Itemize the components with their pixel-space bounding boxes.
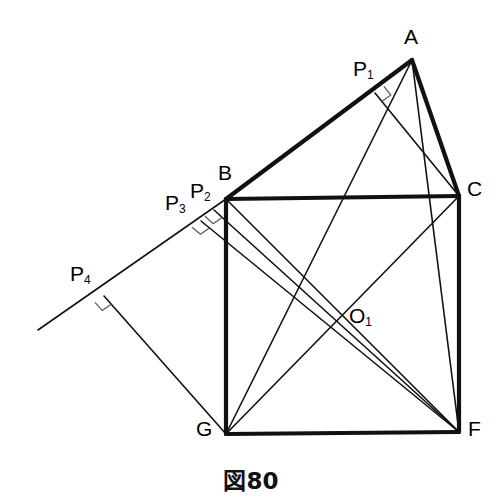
vertex-label-A: A: [404, 26, 418, 47]
point-label-P2: P2: [190, 180, 211, 201]
segment-P3F: [201, 221, 459, 432]
vertex-label-F: F: [468, 418, 481, 439]
segment-P4G: [104, 296, 226, 434]
figure-caption: 図80: [0, 462, 502, 496]
thick-edge-group: [226, 60, 459, 434]
segment-AC: [412, 60, 459, 196]
segment-ray-BP4: [38, 199, 226, 330]
segment-P2F: [214, 210, 459, 432]
segment-BF: [226, 199, 459, 432]
point-label-P1: P1: [353, 58, 374, 79]
right-angle-at-p2: [205, 216, 222, 223]
right-angle-at-p4: [95, 302, 111, 310]
vertex-label-B: B: [218, 162, 232, 183]
segment-P1C: [375, 93, 459, 196]
vertex-label-G: G: [196, 418, 212, 439]
right-angle-at-p3: [192, 227, 210, 234]
figure-canvas: A B C F G O1 P1 P2 P3 P4 図80: [0, 0, 502, 504]
geometry-drawing: [0, 0, 502, 504]
point-label-O1: O1: [349, 305, 372, 326]
segment-AF: [412, 60, 459, 432]
point-label-P4: P4: [70, 263, 91, 284]
thin-edge-group: [38, 60, 459, 434]
right-angle-at-p1: [382, 86, 391, 101]
segment-BC: [226, 196, 459, 199]
point-label-P3: P3: [165, 192, 186, 213]
vertex-label-C: C: [467, 178, 482, 199]
segment-GF: [226, 432, 459, 434]
segment-AB: [226, 60, 412, 199]
